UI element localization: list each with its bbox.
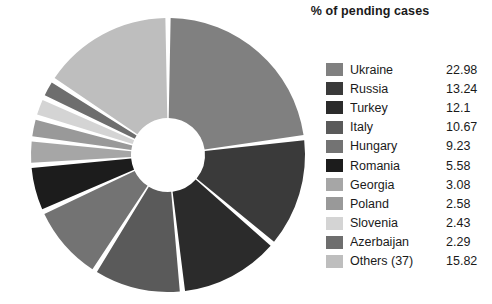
legend-item[interactable]: Poland2.58 bbox=[326, 194, 492, 213]
legend-item-label: Slovenia bbox=[350, 216, 446, 230]
legend-item-value: 2.58 bbox=[446, 197, 492, 211]
legend-swatch-icon bbox=[326, 63, 343, 76]
legend-item-value: 2.43 bbox=[446, 216, 492, 230]
legend-swatch-icon bbox=[326, 82, 343, 95]
legend-swatch-icon bbox=[326, 121, 343, 134]
legend-item[interactable]: Russia13.24 bbox=[326, 79, 492, 98]
legend-item-label: Italy bbox=[350, 120, 446, 134]
legend-item-value: 12.1 bbox=[446, 101, 492, 115]
legend-item-value: 3.08 bbox=[446, 178, 492, 192]
pie-slice[interactable] bbox=[169, 18, 304, 150]
legend-item[interactable]: Slovenia2.43 bbox=[326, 214, 492, 233]
legend-item[interactable]: Ukraine22.98 bbox=[326, 60, 492, 79]
legend-item-label: Georgia bbox=[350, 178, 446, 192]
legend-item-value: 5.58 bbox=[446, 159, 492, 173]
legend-item[interactable]: Others (37)15.82 bbox=[326, 252, 492, 271]
legend-item[interactable]: Hungary9.23 bbox=[326, 137, 492, 156]
legend-item-label: Ukraine bbox=[350, 63, 446, 77]
legend-item[interactable]: Azerbaijan2.29 bbox=[326, 233, 492, 252]
legend-item-value: 2.29 bbox=[446, 235, 492, 249]
legend-item-label: Others (37) bbox=[350, 254, 446, 268]
legend-item-label: Hungary bbox=[350, 139, 446, 153]
legend-item-label: Azerbaijan bbox=[350, 235, 446, 249]
legend-item-label: Turkey bbox=[350, 101, 446, 115]
legend-item-value: 13.24 bbox=[446, 82, 492, 96]
legend-item-value: 15.82 bbox=[446, 254, 492, 268]
legend-item-label: Russia bbox=[350, 82, 446, 96]
pie-plot-area bbox=[0, 0, 320, 304]
legend-swatch-icon bbox=[326, 140, 343, 153]
legend-swatch-icon bbox=[326, 101, 343, 114]
legend-item[interactable]: Georgia3.08 bbox=[326, 175, 492, 194]
legend-item-value: 9.23 bbox=[446, 139, 492, 153]
legend-item[interactable]: Italy10.67 bbox=[326, 118, 492, 137]
legend-swatch-icon bbox=[326, 217, 343, 230]
legend-item-label: Romania bbox=[350, 159, 446, 173]
legend-swatch-icon bbox=[326, 159, 343, 172]
pie-chart-figure: % of pending cases Ukraine22.98Russia13.… bbox=[0, 0, 492, 304]
legend-item[interactable]: Turkey12.1 bbox=[326, 98, 492, 117]
legend-swatch-icon bbox=[326, 255, 343, 268]
legend-item-value: 10.67 bbox=[446, 120, 492, 134]
legend-swatch-icon bbox=[326, 178, 343, 191]
pie-svg bbox=[0, 0, 320, 304]
legend-item-value: 22.98 bbox=[446, 63, 492, 77]
legend-swatch-icon bbox=[326, 197, 343, 210]
legend-item[interactable]: Romania5.58 bbox=[326, 156, 492, 175]
legend-item-label: Poland bbox=[350, 197, 446, 211]
chart-legend: Ukraine22.98Russia13.24Turkey12.1Italy10… bbox=[326, 60, 492, 271]
legend-swatch-icon bbox=[326, 236, 343, 249]
